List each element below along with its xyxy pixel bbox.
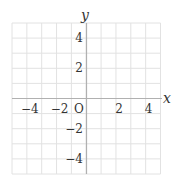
y-tick-label: −2 <box>65 122 83 136</box>
y-tick-label: 2 <box>75 61 83 75</box>
x-axis-label: x <box>163 90 171 106</box>
x-tick-label: 2 <box>115 102 123 116</box>
x-tick-label: −2 <box>51 102 69 116</box>
x-tick-label: 4 <box>145 102 153 116</box>
x-tick-label: −4 <box>21 102 39 116</box>
y-tick-label: −4 <box>65 152 83 166</box>
origin-label: O <box>74 102 84 116</box>
y-tick-label: 4 <box>75 31 83 45</box>
axes <box>12 23 162 174</box>
coordinate-plane: x y O −4−224 42−2−4 <box>0 0 179 182</box>
y-axis-label: y <box>80 7 90 23</box>
